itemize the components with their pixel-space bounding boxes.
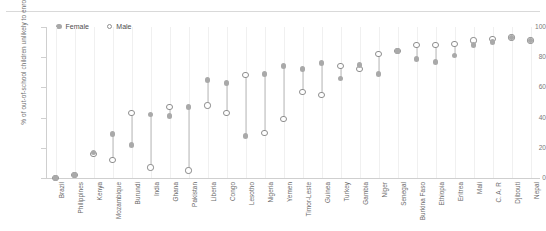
x-tick-label: Liberia (210, 182, 217, 202)
male-data-point (337, 63, 343, 69)
female-data-point (205, 77, 211, 83)
male-data-point (318, 92, 324, 98)
female-data-point (471, 42, 477, 48)
x-tick-label: Lesotho (248, 182, 255, 205)
x-tick-label: Kenya (96, 182, 103, 200)
male-data-point (128, 110, 134, 116)
grid-line (56, 27, 57, 178)
connector-line (226, 83, 227, 113)
connector-line (131, 113, 132, 145)
connector-line (264, 74, 265, 133)
x-tick-label: Philippines (77, 182, 84, 213)
male-data-point (109, 157, 115, 163)
x-tick-label: Yemen (286, 182, 293, 202)
x-axis-line (46, 178, 540, 179)
grid-line (132, 27, 133, 178)
female-data-point (300, 66, 306, 72)
female-data-point (414, 56, 420, 62)
female-data-point (167, 113, 173, 119)
male-data-point (451, 41, 457, 47)
x-tick-label: Burkina Faso (419, 182, 426, 220)
male-data-point (299, 89, 305, 95)
grid-line (322, 27, 323, 178)
female-data-point (72, 172, 78, 178)
x-tick-label: Nepal (533, 182, 540, 199)
female-data-point (224, 80, 230, 86)
female-data-point (281, 63, 287, 69)
female-data-point (53, 175, 59, 181)
x-tick-label: Ethiopia (438, 182, 445, 206)
female-data-point (262, 71, 268, 77)
male-data-point (413, 42, 419, 48)
x-tick-label: Pakistan (191, 182, 198, 207)
x-tick-label: India (153, 182, 160, 196)
connector-line (150, 115, 151, 168)
female-data-point (186, 104, 192, 110)
female-data-point (452, 53, 458, 59)
connector-line (283, 66, 284, 119)
grid-line (303, 27, 304, 178)
grid-line (531, 27, 532, 178)
female-data-point (433, 59, 439, 65)
grid-line (360, 27, 361, 178)
male-data-point (204, 102, 210, 108)
male-data-point (242, 72, 248, 78)
connector-line (321, 63, 322, 95)
chart-figure: % of out-of-school children unlikely to … (0, 0, 546, 231)
female-data-point (110, 131, 116, 137)
x-tick-label: Eritrea (457, 182, 464, 201)
x-tick-label: Ghana (172, 182, 179, 201)
connector-line (188, 107, 189, 170)
top-divider (6, 11, 540, 12)
x-tick-label: Brazil (58, 182, 65, 198)
x-tick-label: Turkey (343, 182, 350, 202)
x-tick-label: Djibouti (514, 182, 521, 204)
female-data-point (148, 112, 154, 118)
female-data-point (129, 142, 135, 148)
female-data-point (357, 62, 363, 68)
grid-line (474, 27, 475, 178)
grid-line (512, 27, 513, 178)
grid-line (75, 27, 76, 178)
x-tick-label: Guinea (324, 182, 331, 203)
male-data-point (375, 51, 381, 57)
x-tick-label: Nigeria (267, 182, 274, 203)
male-data-point (280, 116, 286, 122)
x-tick-label: Burundi (134, 182, 141, 204)
male-data-point (432, 42, 438, 48)
male-data-point (223, 110, 229, 116)
grid-line (341, 27, 342, 178)
female-data-point (338, 76, 344, 82)
grid-line (493, 27, 494, 178)
x-tick-label: Mali (476, 182, 483, 194)
x-tick-label: Congo (229, 182, 236, 201)
x-tick-label: Timor-Leste (305, 182, 312, 216)
male-data-point (166, 104, 172, 110)
female-data-point (376, 71, 382, 77)
grid-line (379, 27, 380, 178)
male-data-point (185, 167, 191, 173)
grid-line (170, 27, 171, 178)
female-data-point (490, 39, 496, 45)
plot-area (46, 27, 540, 178)
female-data-point (243, 133, 249, 139)
male-data-point (261, 130, 267, 136)
x-tick-label: Gambia (362, 182, 369, 205)
connector-line (245, 75, 246, 135)
female-data-point (319, 60, 325, 66)
y-tick (41, 178, 46, 179)
x-tick-label: Senegal (400, 182, 407, 206)
x-tick-label: C. A. R (495, 182, 502, 203)
male-data-point (147, 164, 153, 170)
y-axis-label: % of out-of-school children unlikely to … (20, 0, 27, 147)
x-tick-label: Mozambique (115, 182, 122, 219)
x-tick-label: Niger (381, 182, 388, 198)
